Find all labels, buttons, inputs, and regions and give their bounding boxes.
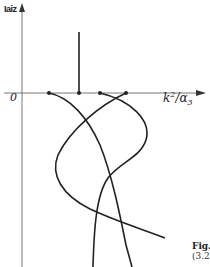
axis-point-3 xyxy=(98,91,102,95)
x-axis-label: k2/α3 xyxy=(163,90,193,107)
axis-point-4 xyxy=(124,91,128,95)
origin-label: 0 xyxy=(10,91,17,104)
figure-caption-prefix: Fig. xyxy=(192,241,210,251)
y-axis-label: Iaiz xyxy=(4,4,17,14)
y-axis-arrow-icon xyxy=(19,3,25,12)
x-label-div: /α xyxy=(175,91,187,105)
x-label-sub: 3 xyxy=(188,98,193,107)
figure-caption-continued: (3.2 xyxy=(192,251,210,261)
curve-c xyxy=(56,93,165,238)
curve-a xyxy=(49,93,132,267)
axis-point-1 xyxy=(47,91,51,95)
figure-plot xyxy=(0,0,210,267)
y-axis xyxy=(19,3,25,267)
axis-point-2 xyxy=(77,91,81,95)
curve-b xyxy=(93,93,147,267)
x-axis-arrow-icon xyxy=(196,90,206,96)
